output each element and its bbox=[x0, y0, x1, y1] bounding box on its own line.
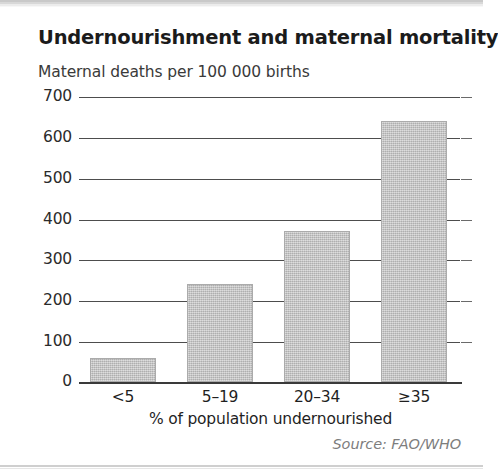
bar-gte35 bbox=[381, 121, 447, 382]
y-tick-label-100: 100 bbox=[10, 332, 72, 350]
scan-edge-bottom-line bbox=[0, 465, 483, 467]
y-tick-label-200: 200 bbox=[10, 291, 72, 309]
bar-20-34 bbox=[284, 231, 350, 382]
y-tick-label-0: 0 bbox=[10, 372, 72, 390]
tick-600 bbox=[461, 138, 472, 139]
tick-700 bbox=[461, 97, 472, 98]
x-tick-label-gte35: ≥35 bbox=[381, 388, 447, 406]
y-tick-label-400: 400 bbox=[10, 210, 72, 228]
y-tick-label-700: 700 bbox=[10, 87, 72, 105]
tick-100 bbox=[461, 342, 472, 343]
scan-edge-bottom-line-soft bbox=[0, 468, 483, 469]
tick-300 bbox=[461, 260, 472, 261]
x-tick-label-20-34: 20–34 bbox=[284, 388, 350, 406]
tick-200 bbox=[461, 301, 472, 302]
tick-500 bbox=[461, 179, 472, 180]
gridline-700 bbox=[79, 97, 460, 98]
source-note: Source: FAO/WHO bbox=[333, 436, 461, 452]
x-axis-title: % of population undernourished bbox=[79, 410, 462, 428]
bar-5-19 bbox=[187, 284, 253, 382]
x-tick-label-lt5: <5 bbox=[90, 388, 156, 406]
y-tick-label-600: 600 bbox=[10, 128, 72, 146]
y-tick-label-300: 300 bbox=[10, 250, 72, 268]
bar-lt5 bbox=[90, 358, 156, 382]
scan-edge-bottom bbox=[0, 462, 483, 474]
y-tick-label-500: 500 bbox=[10, 169, 72, 187]
x-axis-line bbox=[79, 382, 462, 384]
tick-400 bbox=[461, 220, 472, 221]
x-tick-label-5-19: 5–19 bbox=[187, 388, 253, 406]
